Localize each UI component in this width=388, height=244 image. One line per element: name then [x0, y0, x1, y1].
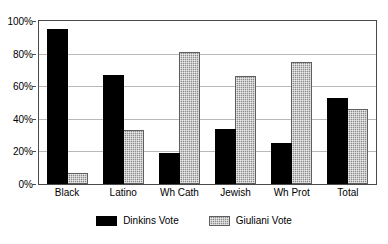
bar-group [103, 21, 144, 184]
legend-item: Giuliani Vote [209, 215, 292, 226]
y-tick-label: 0% [19, 179, 33, 190]
bar [103, 75, 124, 184]
legend: Dinkins VoteGiuliani Vote [0, 215, 388, 226]
y-tick-label: 20% [13, 146, 33, 157]
legend-item: Dinkins Vote [96, 215, 179, 226]
y-tick-label: 100% [7, 16, 33, 27]
bar-group [271, 21, 312, 184]
bar-group [159, 21, 200, 184]
legend-label: Giuliani Vote [236, 215, 292, 226]
bar [347, 109, 368, 184]
bar-group [47, 21, 88, 184]
bars-layer [39, 21, 376, 184]
y-tick-label: 80% [13, 48, 33, 59]
x-tick-label: Jewish [208, 187, 264, 198]
bar-chart: 0%20%40%60%80%100% BlackLatinoWh CathJew… [0, 0, 388, 244]
y-tick-label: 60% [13, 81, 33, 92]
y-tick-mark [32, 184, 36, 185]
x-tick-label: Wh Cath [151, 187, 207, 198]
bar [123, 130, 144, 184]
bar [327, 98, 348, 184]
y-tick-mark [32, 86, 36, 87]
y-tick-mark [32, 21, 36, 22]
x-tick-label: Wh Prot [264, 187, 320, 198]
legend-swatch [96, 216, 117, 226]
y-axis: 0%20%40%60%80%100% [0, 20, 36, 185]
bar-group [327, 21, 368, 184]
legend-label: Dinkins Vote [123, 215, 179, 226]
bar [271, 143, 292, 184]
y-tick-mark [32, 119, 36, 120]
bar-group [215, 21, 256, 184]
x-tick-label: Black [39, 187, 95, 198]
bar [67, 173, 88, 184]
legend-swatch [209, 216, 230, 226]
bar [159, 153, 180, 184]
x-tick-label: Latino [95, 187, 151, 198]
bar [179, 52, 200, 184]
bar [291, 62, 312, 184]
x-tick-label: Total [320, 187, 376, 198]
y-tick-mark [32, 54, 36, 55]
bar [47, 29, 68, 184]
y-tick-label: 40% [13, 113, 33, 124]
bar [215, 129, 236, 184]
bar [235, 76, 256, 184]
y-tick-mark [32, 151, 36, 152]
x-axis: BlackLatinoWh CathJewishWh ProtTotal [39, 187, 376, 203]
